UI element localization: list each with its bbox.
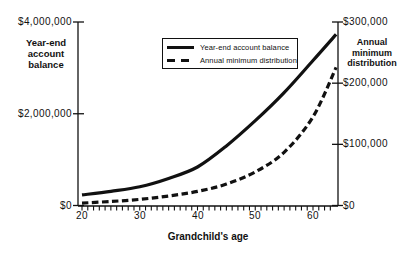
solid-line-swatch xyxy=(167,46,194,49)
x-tick-label-30: 30 xyxy=(126,210,154,221)
left-axis-title: Year-end account balance xyxy=(16,37,76,70)
legend-item-distribution: Annual minimum distribution xyxy=(163,54,297,67)
legend-label-distribution: Annual minimum distribution xyxy=(200,56,297,65)
x-tick-label-60: 60 xyxy=(299,210,327,221)
left-axis-tick-label-2000000: $2,000,000 xyxy=(2,108,72,119)
right-axis-tick-label-100000: $100,000 xyxy=(343,138,405,149)
right-axis-title-line-1: Annual xyxy=(339,37,405,48)
right-axis-tick-label-0: $0 xyxy=(343,200,405,211)
left-axis-tick-label-4000000: $4,000,000 xyxy=(2,16,72,27)
left-axis-title-line-2: account xyxy=(16,48,76,59)
x-axis-title: Grandchild's age xyxy=(146,231,270,243)
legend-item-balance: Year-end account balance xyxy=(163,41,297,54)
figure: $4,000,000 $2,000,000 $0 Year-end accoun… xyxy=(0,0,408,262)
x-tick-label-50: 50 xyxy=(241,210,269,221)
left-axis-tick-label-0: $0 xyxy=(2,200,72,211)
right-axis-title-line-2: minimum xyxy=(339,48,405,59)
legend-label-balance: Year-end account balance xyxy=(200,43,289,52)
left-axis-title-line-3: balance xyxy=(16,59,76,70)
distribution-curve xyxy=(82,67,336,203)
x-tick-label-20: 20 xyxy=(68,210,96,221)
right-axis-tick-label-300000: $300,000 xyxy=(343,16,405,27)
right-axis-title-line-3: distribution xyxy=(339,58,405,69)
left-axis-title-line-1: Year-end xyxy=(16,37,76,48)
right-axis-tick-label-200000: $200,000 xyxy=(343,77,405,88)
dashed-line-swatch xyxy=(167,59,194,62)
x-tick-label-40: 40 xyxy=(184,210,212,221)
legend: Year-end account balance Annual minimum … xyxy=(162,38,298,69)
right-axis-title: Annual minimum distribution xyxy=(339,37,405,69)
